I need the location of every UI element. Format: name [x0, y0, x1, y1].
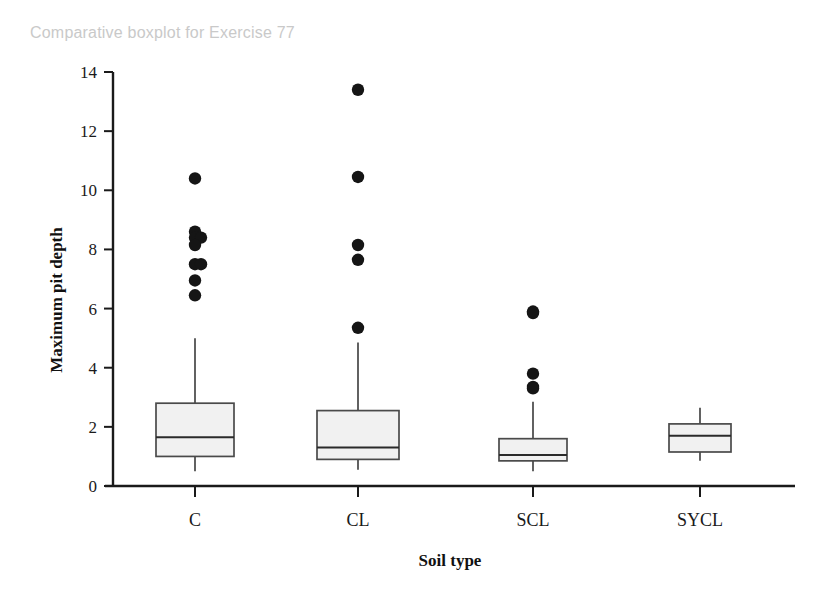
- y-tick-label: 6: [89, 300, 98, 319]
- y-axis-title: Maximum pit depth: [47, 227, 66, 373]
- box-body: [669, 424, 731, 452]
- plot-area: 02468101214Maximum pit depthCCLSCLSYCLSo…: [0, 0, 830, 602]
- boxplot-figure: Comparative boxplot for Exercise 77 0246…: [0, 0, 830, 602]
- outlier-point: [195, 258, 207, 270]
- outlier-point: [527, 367, 539, 379]
- y-tick-label: 2: [89, 418, 98, 437]
- outlier-point: [189, 172, 201, 184]
- outlier-point: [189, 239, 201, 251]
- box-group-cl: [317, 84, 399, 470]
- outlier-point: [352, 84, 364, 96]
- y-tick-label: 10: [80, 181, 97, 200]
- box-group-scl: [499, 305, 567, 471]
- x-tick-label-scl: SCL: [516, 510, 549, 530]
- outlier-point: [527, 382, 539, 394]
- box-group-c: [156, 172, 234, 471]
- x-tick-label-sycl: SYCL: [677, 510, 723, 530]
- outlier-point: [352, 171, 364, 183]
- y-tick-label: 8: [89, 240, 98, 259]
- box-group-sycl: [669, 408, 731, 461]
- outlier-point: [352, 254, 364, 266]
- outlier-point: [352, 322, 364, 334]
- outlier-point: [352, 239, 364, 251]
- outlier-point: [527, 307, 539, 319]
- x-tick-label-cl: CL: [346, 510, 369, 530]
- outlier-point: [189, 274, 201, 286]
- labels-layer: 02468101214Maximum pit depthCCLSCLSYCLSo…: [47, 63, 723, 570]
- boxes-layer: [156, 84, 731, 472]
- y-tick-label: 4: [89, 359, 98, 378]
- box-body: [499, 439, 567, 461]
- x-axis-title: Soil type: [419, 551, 482, 570]
- x-tick-label-c: C: [189, 510, 201, 530]
- y-tick-label: 14: [80, 63, 98, 82]
- box-body: [156, 403, 234, 456]
- outlier-point: [189, 289, 201, 301]
- y-tick-label: 0: [89, 477, 98, 496]
- y-tick-label: 12: [80, 122, 97, 141]
- box-body: [317, 411, 399, 460]
